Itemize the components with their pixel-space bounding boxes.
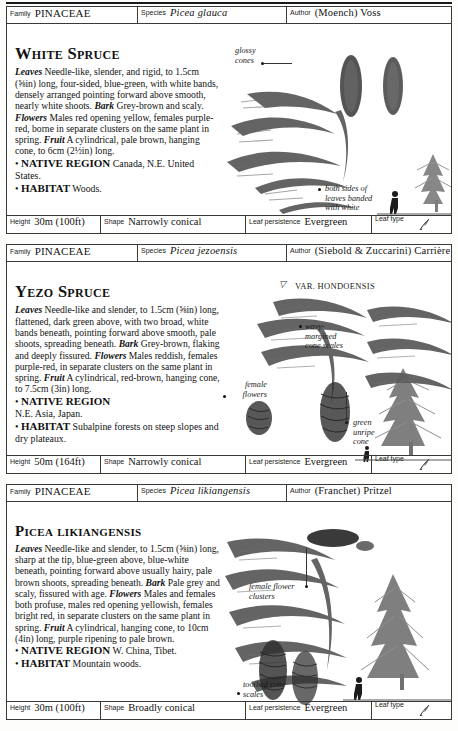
hanging-cone-2 <box>292 651 318 705</box>
species-cell: Species Picea jezoensis <box>137 245 286 261</box>
entry-header-row: Family PINACEAE Species Picea jezoensis … <box>7 245 451 262</box>
tree-silhouette <box>415 154 451 212</box>
callout-lead-line <box>264 63 292 64</box>
entry-footer-row: Height 30m (100ft) Shape Broadly conical… <box>7 701 451 719</box>
human-scale-figure <box>354 677 362 700</box>
cone-glossy-1 <box>340 55 362 117</box>
family-value: PINACEAE <box>35 245 91 257</box>
needle-leaf-icon <box>417 218 433 232</box>
callout-lead-dot <box>299 325 302 328</box>
term-bark: Bark <box>94 100 114 111</box>
text-column: Yezo Spruce Leaves Needle-like and slend… <box>15 283 222 444</box>
illustration-area: VAR. HONDOENSIS ▽ female flowers wavy- m… <box>217 280 451 471</box>
text-column: White Spruce Leaves Needle-like, slender… <box>15 45 222 195</box>
callout-female-flower-clusters: female flower clusters <box>249 582 294 601</box>
callout-lead-dot <box>237 692 240 695</box>
shape-value: Narrowly conical <box>128 456 201 467</box>
term-bark: Bark <box>146 577 166 588</box>
species-cell: Species Picea likiangensis <box>137 485 286 501</box>
term-leaves: Leaves <box>15 304 42 315</box>
page-title: White Spruce <box>15 45 222 63</box>
leaf-type-cell: Leaf type <box>371 216 451 233</box>
author-value: (Siebold & Zuccarini) Carrière <box>315 245 451 256</box>
habitat-label: HABITAT <box>21 420 70 432</box>
bullet-icon: • <box>15 183 19 194</box>
native-region-value-line: N.E. Asia, Japan. <box>15 408 222 420</box>
page-title: Yezo Spruce <box>15 283 222 301</box>
habitat-label: HABITAT <box>21 657 70 669</box>
illustration-area: glossy cones both sides of leaves banded… <box>217 42 451 231</box>
callout-glossy-cones: glossy cones <box>235 46 256 65</box>
author-value: (Franchet) Pritzel <box>315 485 392 496</box>
native-region-label: NATIVE REGION <box>21 644 110 656</box>
term-leaves: Leaves <box>15 66 42 77</box>
author-cell: Author (Moench) Voss <box>286 7 451 23</box>
shape-cell: Shape Narrowly conical <box>100 456 245 473</box>
term-flowers: Flowers <box>15 112 47 123</box>
field-guide-page: Family PINACEAE Species Picea glauca Aut… <box>0 0 458 731</box>
leaf-persistence-cell: Leaf persistence Evergreen <box>245 456 371 473</box>
cone-glossy-2 <box>383 57 403 115</box>
height-cell: Height 30m (100ft) <box>7 216 100 233</box>
yezo-spruce-illustration <box>217 280 451 471</box>
family-label: Family <box>10 10 31 17</box>
height-cell: Height 50m (164ft) <box>7 456 100 473</box>
family-value: PINACEAE <box>35 485 91 497</box>
shape-cell: Shape Narrowly conical <box>100 216 245 233</box>
callout-leaves-banded: both sides of leaves banded with white <box>325 184 372 213</box>
entry-footer-row: Height 50m (164ft) Shape Narrowly conica… <box>7 455 451 473</box>
female-flower-cluster <box>307 529 374 551</box>
illustration-area: female flower clusters toothed cone scal… <box>217 520 451 717</box>
entry-body: Picea likiangensis Leaves Needle-like an… <box>7 502 451 731</box>
leaf-type-label: Leaf type <box>375 216 404 222</box>
term-flowers: Flowers <box>109 588 141 599</box>
entry-header-row: Family PINACEAE Species Picea likiangens… <box>7 485 451 502</box>
description-text: Leaves Needle-like and slender, to 1.5cm… <box>15 543 222 644</box>
height-label: Height <box>10 218 30 225</box>
height-value: 30m (100ft) <box>34 216 84 227</box>
species-cell: Species Picea glauca <box>137 7 286 23</box>
habitat-line: • HABITAT Woods. <box>15 182 222 195</box>
family-cell: Family PINACEAE <box>7 245 137 261</box>
callout-lead-line <box>346 392 347 422</box>
leaf-type-cell: Leaf type <box>371 456 451 473</box>
leaf-type-label: Leaf type <box>375 456 404 462</box>
habitat-value: Mountain woods. <box>73 658 142 669</box>
native-region-label: NATIVE REGION <box>21 395 110 407</box>
native-region-line: • NATIVE REGION Canada, N.E. United Stat… <box>15 157 222 182</box>
species-value: Picea jezoensis <box>170 245 237 256</box>
species-entry-white-spruce: Family PINACEAE Species Picea glauca Aut… <box>6 6 452 234</box>
native-region-value: N.E. Asia, Japan. <box>15 408 82 419</box>
shape-label: Shape <box>104 704 124 711</box>
bullet-icon: • <box>15 645 19 656</box>
bullet-icon: • <box>15 658 19 669</box>
habitat-line: • HABITAT Mountain woods. <box>15 657 222 670</box>
term-fruit: Fruit <box>44 134 65 145</box>
needle-leaf-icon <box>417 704 433 718</box>
description-text: Leaves Needle-like, slender, and rigid, … <box>15 66 222 156</box>
leaf-type-label: Leaf type <box>375 702 404 708</box>
author-label: Author <box>290 487 311 494</box>
author-value: (Moench) Voss <box>315 7 381 18</box>
leaf-persistence-value: Evergreen <box>304 702 347 713</box>
family-cell: Family PINACEAE <box>7 7 137 23</box>
leaf-persistence-label: Leaf persistence <box>249 458 300 465</box>
needle-leaf-icon <box>417 458 433 472</box>
term-bark: Bark <box>119 338 139 349</box>
bullet-icon: • <box>15 396 19 407</box>
author-cell: Author (Siebold & Zuccarini) Carrière <box>286 245 451 261</box>
species-label: Species <box>141 247 166 254</box>
height-label: Height <box>10 458 30 465</box>
description-text: Leaves Needle-like and slender, to 1.5cm… <box>15 304 222 394</box>
height-value: 50m (164ft) <box>34 456 84 467</box>
term-fruit: Fruit <box>44 622 65 633</box>
height-value: 30m (100ft) <box>34 702 84 713</box>
leaf-type-cell: Leaf type <box>371 702 451 719</box>
shape-value: Broadly conical <box>128 702 195 713</box>
callout-wavy-margined-cone-scales: wavy- margined cone scales <box>305 322 343 351</box>
species-entry-yezo-spruce: Family PINACEAE Species Picea jezoensis … <box>6 244 452 474</box>
species-label: Species <box>141 487 166 494</box>
page-title: Picea likiangensis <box>15 523 222 540</box>
shape-label: Shape <box>104 458 124 465</box>
habitat-label: HABITAT <box>21 182 70 194</box>
